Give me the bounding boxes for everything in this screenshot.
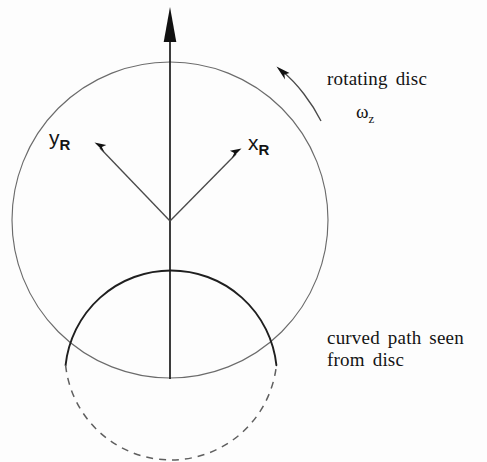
curved-path-label-line2: from disc	[327, 349, 464, 371]
curved-path-label-line1: curved path seen	[327, 327, 464, 349]
omega-symbol: ω	[356, 101, 369, 122]
curved-path-dashed-arc	[66, 365, 277, 460]
y-axis-arrowhead	[95, 143, 107, 153]
rotation-direction-arc	[282, 71, 321, 121]
rotating-disc-label: rotating disc	[327, 68, 427, 90]
x-axis-subscript: R	[259, 141, 270, 158]
rotating-disc-diagram: rotating disc ωz curved path seen from d…	[0, 0, 487, 462]
angular-velocity-label: ωz	[356, 101, 374, 126]
z-axis-arrowhead	[164, 7, 177, 42]
x-axis-symbol: x	[248, 131, 259, 154]
omega-subscript: z	[369, 111, 375, 126]
y-axis-label: yR	[49, 126, 70, 154]
x-axis-label: xR	[248, 131, 269, 159]
rotation-direction-arrowhead	[277, 67, 290, 80]
y-axis-shaft	[100, 148, 170, 221]
curved-path-solid-arc	[66, 270, 277, 365]
y-axis-symbol: y	[49, 126, 60, 149]
curved-path-label: curved path seen from disc	[327, 327, 464, 372]
x-axis-shaft	[170, 154, 236, 221]
x-axis-arrowhead	[230, 149, 242, 159]
y-axis-subscript: R	[60, 136, 71, 153]
